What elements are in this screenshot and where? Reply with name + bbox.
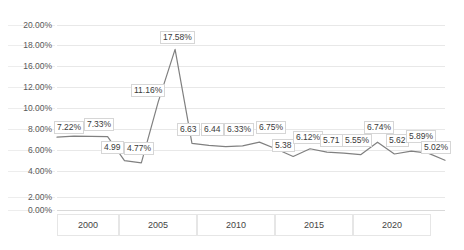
line-chart: 20.00% 18.00% 16.00% 12.00% 10.00% 8.00%… xyxy=(0,0,464,250)
y-tick-label: 20.00% xyxy=(23,20,52,30)
x-tick-label: 2015 xyxy=(275,214,353,236)
y-tick-label: 2.00% xyxy=(28,192,52,202)
y-tick-label: 0.00% xyxy=(28,205,52,215)
y-axis: 20.00% 18.00% 16.00% 12.00% 10.00% 8.00%… xyxy=(0,25,57,210)
data-label: 6.33% xyxy=(224,123,254,136)
data-label: 4.77% xyxy=(124,142,154,155)
y-tick-label: 4.00% xyxy=(28,166,52,176)
data-label: 6.74% xyxy=(364,121,394,134)
y-tick-label: 8.00% xyxy=(28,124,52,134)
x-tick-label: 2000 xyxy=(57,214,119,236)
data-label: 6.12% xyxy=(293,131,323,144)
data-label: 5.02% xyxy=(421,141,451,154)
y-tick-label: 16.00% xyxy=(23,61,52,71)
plot-area xyxy=(57,25,445,210)
data-label: 6.44 xyxy=(201,123,224,136)
data-label: 17.58% xyxy=(160,31,195,44)
data-label: 5.71 xyxy=(320,134,343,147)
data-label: 5.55% xyxy=(342,134,372,147)
y-tick-label: 10.00% xyxy=(23,103,52,113)
x-axis: 2000 2005 2010 2015 2020 xyxy=(57,214,445,236)
x-tick-label: 2010 xyxy=(197,214,275,236)
data-label: 4.99 xyxy=(101,141,124,154)
data-label: 11.16% xyxy=(131,84,165,97)
data-label: 6.75% xyxy=(256,121,286,134)
y-tick-label: 6.00% xyxy=(28,145,52,155)
data-label: 5.38 xyxy=(272,139,295,152)
x-tick-label: 2005 xyxy=(119,214,197,236)
y-tick-label: 12.00% xyxy=(23,82,52,92)
data-label: 7.33% xyxy=(84,118,114,131)
data-label: 6.63 xyxy=(177,123,200,136)
y-tick-label: 18.00% xyxy=(23,40,52,50)
data-label: 7.22% xyxy=(54,121,84,134)
x-axis-line xyxy=(57,210,445,211)
data-series-line xyxy=(57,25,445,210)
x-tick-label: 2020 xyxy=(353,214,431,236)
